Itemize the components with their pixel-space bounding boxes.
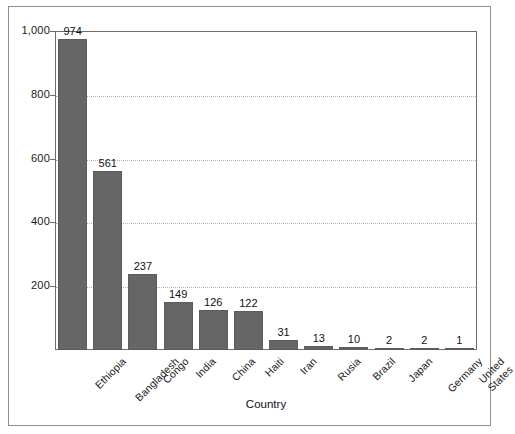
bar-value-label: 237 bbox=[119, 260, 166, 272]
y-axis-tick-label: 800 bbox=[6, 89, 50, 100]
bar-value-label: 561 bbox=[84, 157, 131, 169]
bar[interactable] bbox=[93, 171, 122, 350]
x-axis-tick-label: Iran bbox=[297, 355, 319, 377]
bar-value-label: 974 bbox=[49, 25, 96, 37]
bar[interactable] bbox=[58, 39, 87, 350]
x-axis-tick-label: Rusia bbox=[335, 355, 363, 383]
bar[interactable] bbox=[445, 348, 474, 350]
bar-series: 974561237149126122311310221 bbox=[55, 31, 477, 350]
x-axis-tick-label: Haiti bbox=[263, 355, 287, 379]
bar[interactable] bbox=[128, 274, 157, 350]
bar[interactable] bbox=[375, 348, 404, 350]
x-axis-tick-label: Japan bbox=[406, 355, 435, 384]
y-axis-tick-label: 400 bbox=[6, 216, 50, 227]
y-axis-tick-label: 600 bbox=[6, 153, 50, 164]
bar[interactable] bbox=[199, 310, 228, 350]
y-axis-tick-label: 1,000 bbox=[6, 25, 50, 36]
bar[interactable] bbox=[164, 302, 193, 350]
bar-value-label: 1 bbox=[436, 334, 483, 346]
bar-value-label: 122 bbox=[225, 297, 272, 309]
x-axis-tick-label: Brazil bbox=[370, 355, 397, 382]
bar[interactable] bbox=[304, 346, 333, 350]
bar[interactable] bbox=[410, 348, 439, 350]
y-axis-tick-label: 200 bbox=[6, 280, 50, 291]
x-axis-title: Country bbox=[55, 398, 477, 410]
bar[interactable] bbox=[234, 311, 263, 350]
x-axis-tick-label: China bbox=[229, 355, 257, 383]
x-axis-tick-label: India bbox=[193, 355, 218, 380]
bar[interactable] bbox=[269, 340, 298, 350]
x-axis-tick-label: Ethiopia bbox=[92, 355, 128, 391]
bar[interactable] bbox=[339, 347, 368, 350]
